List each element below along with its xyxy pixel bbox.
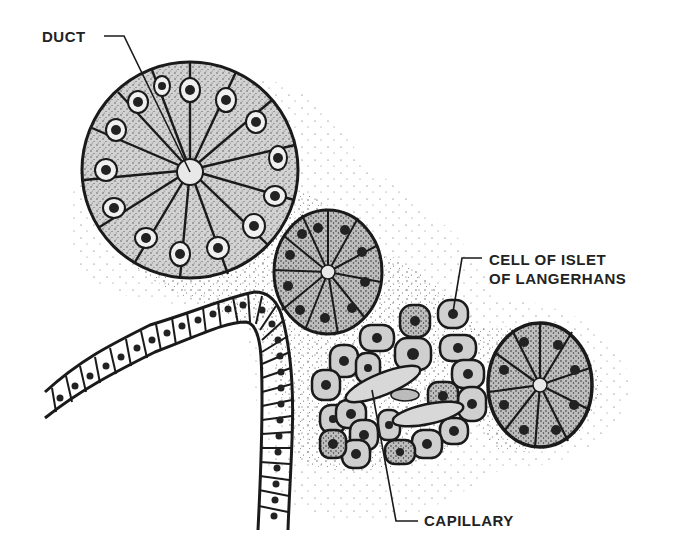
capillary-label: CAPILLARY <box>424 511 514 530</box>
large-acinus <box>82 62 298 278</box>
islet-cell-label: CELL OF ISLET OF LANGERHANS <box>489 250 626 288</box>
duct-label: DUCT <box>42 27 86 46</box>
medium-acinus <box>274 210 382 334</box>
islet-label-line2: OF LANGERHANS <box>489 269 626 288</box>
islet-label-line1: CELL OF ISLET <box>489 250 626 269</box>
duct-epithelium <box>45 292 293 530</box>
small-acinus <box>488 323 592 447</box>
